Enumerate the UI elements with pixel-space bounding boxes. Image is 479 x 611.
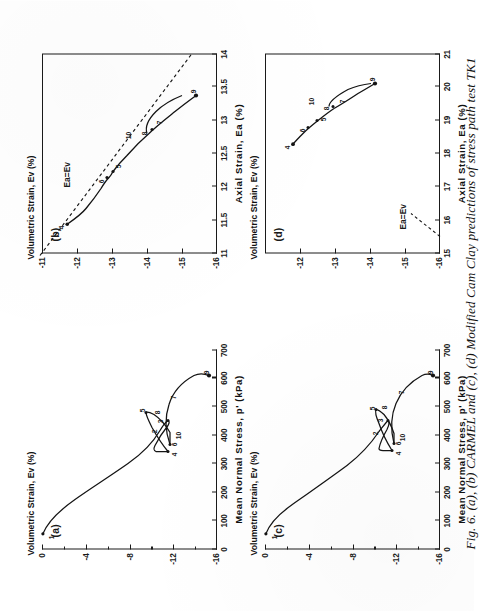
panel-a-curve (42, 349, 217, 549)
x-tick-label: 11 (220, 249, 229, 257)
x-tick-label: 14 (220, 50, 229, 59)
reference-line-label: Ea=Ev (398, 204, 408, 229)
y-tick-label: -11 (38, 257, 47, 274)
point-label: 1 (271, 535, 278, 539)
point-label: 2 (372, 431, 379, 435)
y-tick-label: -8 (125, 553, 134, 567)
x-tick-label: 600 (220, 371, 229, 384)
y-tick-label: -14 (143, 257, 152, 274)
x-tick-label: 11.5 (220, 212, 229, 227)
point-label: 4 (395, 451, 402, 455)
x-tick-label: 16 (443, 215, 452, 224)
x-tick-label: 12 (220, 182, 229, 191)
point-label: 8 (141, 131, 148, 135)
x-tick-label: 200 (443, 485, 452, 498)
x-tick-label: 13.5 (220, 79, 229, 94)
y-tick-label: -12 (169, 553, 178, 570)
point-label: 6 (395, 441, 402, 445)
y-tick-label: -13 (331, 257, 340, 274)
x-tick-label: 21 (443, 50, 452, 59)
y-tick-label: -16 (435, 553, 444, 570)
x-tick-label: 20 (443, 82, 452, 91)
point-label: 5 (320, 117, 327, 121)
y-tick-label: -12 (73, 257, 82, 274)
y-tick-label: -12 (296, 257, 305, 274)
point-label: 4 (284, 145, 291, 149)
y-tick-label: -16 (212, 553, 221, 570)
panel-a: (a) 1 2 3 4 5 6 7 8 9 10 (42, 349, 217, 549)
point-label: 7 (339, 99, 346, 103)
x-tick-label: 18 (443, 149, 452, 158)
x-tick-label: 400 (220, 428, 229, 441)
x-tick-label: 12.5 (220, 145, 229, 160)
point-label: 7 (170, 395, 177, 399)
point-label: 9 (203, 370, 210, 374)
x-tick-label: 15 (443, 249, 452, 258)
panel-c-curve (265, 349, 440, 549)
panel-b-y-axis-title: Volumetric Strain, Ev (%) (26, 155, 36, 259)
panel-d-curve (265, 53, 440, 253)
panel-b-curve (42, 53, 217, 253)
y-tick-label: -13 (108, 257, 117, 274)
point-label: 7 (398, 390, 405, 394)
point-label: 5 (139, 408, 146, 412)
y-tick-label: -15 (401, 257, 410, 274)
point-label: 4 (58, 225, 65, 229)
point-label: 5 (369, 406, 376, 410)
x-tick-label: 17 (443, 182, 452, 191)
reference-line-label: Ea=Ev (62, 162, 72, 187)
point-label: 10 (308, 97, 315, 104)
x-tick-label: 300 (443, 457, 452, 470)
panel-c-y-axis-title: Volumetric Strain, Ev (%) (249, 451, 259, 555)
x-tick-label: 0 (443, 547, 452, 551)
point-label: 5 (115, 164, 122, 168)
x-tick-label: 700 (220, 343, 229, 356)
x-tick-label: 400 (443, 428, 452, 441)
point-label: 3 (377, 418, 384, 422)
x-tick-label: 500 (443, 400, 452, 413)
x-tick-label: 100 (220, 514, 229, 527)
y-tick-label: -4 (81, 553, 90, 567)
point-label: 8 (154, 410, 161, 414)
point-label: 9 (369, 77, 376, 81)
y-tick-label: -12 (392, 553, 401, 570)
point-label: 6 (98, 179, 105, 183)
point-label: 9 (190, 89, 197, 93)
point-label: 6 (299, 128, 306, 132)
panel-a-y-axis-title: Volumetric Strain, Ev (%) (26, 451, 36, 555)
panel-c: (c) 1 2 3 4 5 6 7 8 9 10 (265, 349, 440, 549)
x-tick-label: 19 (443, 115, 452, 124)
y-tick-label: -14 (366, 257, 375, 274)
panel-d: (d) Ea=Ev 4 6 5 8 7 10 9 (265, 53, 440, 253)
point-label: 2 (151, 429, 158, 433)
panel-d-y-axis-title: Volumetric Strain, Ev (%) (249, 155, 259, 259)
panel-a-x-axis-title: Mean Normal Stress, p' (kPa) (233, 375, 244, 524)
figure-caption: Fig. 6. (a), (b) CARMEL and (c), (d) Mod… (463, 57, 479, 549)
point-label: 1 (48, 535, 55, 539)
x-tick-label: 13 (220, 115, 229, 124)
point-label: 8 (381, 405, 388, 409)
x-tick-label: 700 (443, 343, 452, 356)
point-label: 6 (171, 442, 178, 446)
x-tick-label: 500 (220, 400, 229, 413)
y-tick-label: -16 (212, 257, 221, 274)
x-tick-label: 0 (220, 547, 229, 551)
point-label: 9 (427, 370, 434, 374)
x-tick-label: 100 (443, 514, 452, 527)
y-tick-label: 0 (38, 553, 47, 565)
x-tick-label: 300 (220, 457, 229, 470)
y-tick-label: -15 (178, 257, 187, 274)
x-tick-label: 600 (443, 371, 452, 384)
panel-b: (b) Ea=Ev 4 6 5 8 7 10 9 (42, 53, 217, 253)
y-tick-label: -16 (435, 257, 444, 274)
point-label: 10 (175, 431, 182, 438)
x-tick-label: 200 (220, 485, 229, 498)
point-label: 8 (323, 106, 330, 110)
point-label: 3 (157, 419, 164, 423)
panel-b-x-axis-title: Axial Strain, Ea (%) (233, 103, 244, 202)
point-label: 10 (125, 131, 132, 138)
point-label: 4 (171, 452, 178, 456)
y-tick-label: -4 (304, 553, 313, 567)
